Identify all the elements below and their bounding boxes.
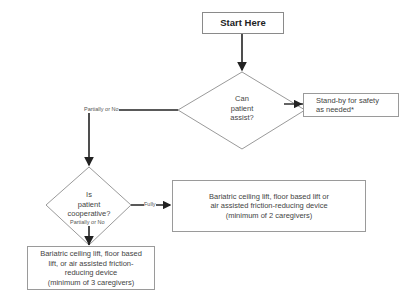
outcome-three-caregivers: Bariatric ceiling lift, floor based lift…	[27, 246, 155, 290]
start-node: Start Here	[202, 12, 284, 34]
edge-label-assist-partial: Partially or No	[84, 106, 119, 113]
edge-label-cooperative-fully: Fully	[144, 201, 156, 208]
outcome-two-caregivers: Bariatric ceiling lift, floor based lift…	[172, 180, 366, 232]
decision-label-cooperative: Is patient cooperative?	[54, 190, 124, 219]
outcome-standby: Stand-by for safety as needed*	[303, 93, 399, 117]
edge-label-cooperative-partial: Partially or No	[70, 219, 105, 226]
decision-label-assist: Can patient assist?	[212, 94, 272, 123]
